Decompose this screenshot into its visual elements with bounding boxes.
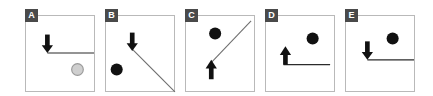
surface-line — [132, 49, 175, 92]
panel-d: D — [265, 15, 335, 92]
ball-black — [387, 32, 399, 44]
panel-a-canvas — [26, 16, 94, 91]
panel-e: E — [345, 15, 415, 92]
down-arrow — [362, 41, 373, 59]
panel-a: A — [25, 15, 95, 92]
panel-label-badge-b: B — [105, 9, 118, 22]
ball-gray — [72, 64, 84, 76]
panel-label-badge-d: D — [265, 9, 278, 22]
panel-c: C — [185, 15, 255, 92]
panel-c-canvas — [186, 16, 254, 91]
surface-line — [209, 21, 251, 65]
panel-e-canvas — [346, 16, 414, 91]
panel-label-badge-a: A — [25, 9, 38, 22]
figure-panels-container: A B C — [0, 0, 433, 96]
panel-label-badge-e: E — [345, 9, 358, 22]
down-arrow — [42, 35, 53, 53]
panel-d-canvas — [266, 16, 334, 91]
ball-black — [111, 64, 123, 76]
ball-black — [307, 32, 319, 44]
panel-b: B — [105, 15, 175, 92]
panel-b-canvas — [106, 16, 174, 91]
down-arrow — [127, 33, 138, 51]
panel-label-badge-c: C — [185, 9, 198, 22]
ball-black — [209, 28, 221, 40]
up-arrow — [206, 60, 217, 79]
up-arrow — [280, 46, 291, 64]
